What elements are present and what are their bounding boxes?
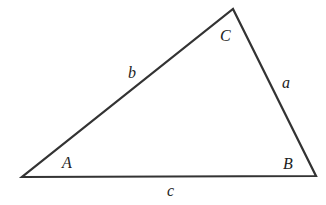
angle-label-b: B bbox=[283, 155, 293, 172]
side-label-c: c bbox=[167, 182, 174, 199]
side-label-a: a bbox=[282, 74, 290, 91]
angle-label-c: C bbox=[220, 27, 231, 44]
triangle-abc bbox=[22, 9, 316, 177]
side-label-b: b bbox=[128, 64, 136, 81]
angle-label-a: A bbox=[61, 154, 72, 171]
triangle-diagram: A B C a b c bbox=[0, 0, 326, 205]
